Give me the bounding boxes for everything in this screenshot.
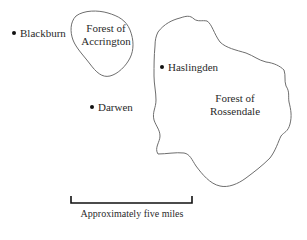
area-label-rossendale: Forest of Rossendale	[200, 92, 270, 118]
town-label: Blackburn	[20, 27, 66, 39]
town-dot-icon	[160, 65, 164, 69]
town-label: Haslingden	[168, 61, 218, 73]
scale-bar	[71, 196, 192, 203]
scale-label-text: Approximately five miles	[81, 208, 184, 219]
area-label-line: Forest of	[80, 22, 132, 35]
town-label: Darwen	[98, 101, 133, 113]
area-label-accrington: Forest of Accrington	[80, 22, 132, 48]
town-dot-icon	[90, 105, 94, 109]
town-blackburn: Blackburn	[12, 27, 66, 40]
town-haslingden: Haslingden	[160, 61, 218, 74]
scale-label: Approximately five miles	[60, 207, 204, 220]
area-label-line: Rossendale	[200, 105, 270, 118]
town-dot-icon	[12, 31, 16, 35]
area-label-line: Accrington	[80, 35, 132, 48]
area-label-line: Forest of	[200, 92, 270, 105]
town-darwen: Darwen	[90, 101, 133, 114]
